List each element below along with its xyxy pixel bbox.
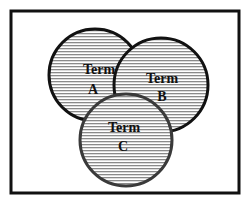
circle-a-letter-label: A <box>88 82 99 97</box>
circle-c: Term C <box>80 94 172 186</box>
venn-diagram: Term A Term B Term C <box>0 0 252 206</box>
circle-b-term-label: Term <box>146 71 178 86</box>
circle-a-term-label: Term <box>83 62 115 77</box>
circle-c-term-label: Term <box>108 120 140 135</box>
circle-b-letter-label: B <box>157 89 166 104</box>
circle-c-letter-label: C <box>118 139 128 154</box>
